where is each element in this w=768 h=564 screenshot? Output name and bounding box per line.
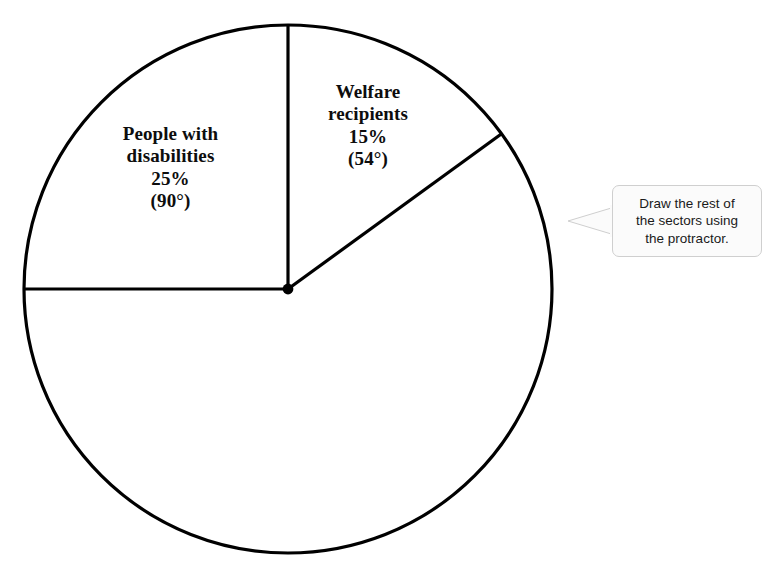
slice-label-line-2: disabilities xyxy=(78,145,263,167)
slice-label-percent: 25% xyxy=(78,168,263,190)
slice-label-line-2: recipients xyxy=(288,103,448,125)
pie-chart-worksheet: People with disabilities 25% (90°) Welfa… xyxy=(0,0,768,564)
slice-label-percent: 15% xyxy=(288,126,448,148)
slice-label-line-1: Welfare xyxy=(288,81,448,103)
callout-text: Draw the rest of the sectors using the p… xyxy=(636,195,738,248)
callout-line-1: Draw the rest of xyxy=(636,195,738,213)
instruction-callout: Draw the rest of the sectors using the p… xyxy=(612,185,762,257)
slice-label-people-with-disabilities: People with disabilities 25% (90°) xyxy=(78,123,263,213)
slice-label-degrees: (90°) xyxy=(78,190,263,212)
slice-label-degrees: (54°) xyxy=(288,148,448,170)
callout-tail-icon xyxy=(566,204,618,238)
pie-center-dot xyxy=(283,284,294,295)
callout-line-3: the protractor. xyxy=(636,230,738,248)
slice-label-welfare-recipients: Welfare recipients 15% (54°) xyxy=(288,81,448,171)
slice-label-line-1: People with xyxy=(78,123,263,145)
callout-line-2: the sectors using xyxy=(636,212,738,230)
